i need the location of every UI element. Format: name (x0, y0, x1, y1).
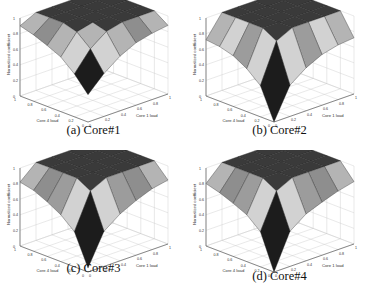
svg-text:1: 1 (169, 246, 171, 250)
svg-text:1: 1 (14, 248, 16, 252)
svg-text:0.8: 0.8 (214, 253, 219, 257)
svg-text:0: 0 (199, 95, 201, 99)
z-axis-label: Normalized coefficient (192, 183, 197, 225)
svg-text:0.6: 0.6 (199, 48, 204, 52)
svg-text:0.4: 0.4 (307, 263, 312, 267)
svg-text:0.6: 0.6 (13, 198, 18, 202)
caption-core3: (c) Core#3 (0, 261, 187, 276)
svg-text:1: 1 (169, 96, 171, 100)
svg-text:1: 1 (199, 167, 201, 171)
svg-text:0.8: 0.8 (153, 102, 158, 106)
svg-text:0.8: 0.8 (28, 253, 33, 257)
panel-core3: 00.20.40.60.8100.20.40.60.8100.20.40.60.… (0, 150, 187, 300)
surface (206, 0, 354, 122)
svg-text:0.2: 0.2 (13, 229, 18, 233)
surface (206, 150, 354, 272)
svg-text:0.2: 0.2 (199, 79, 204, 83)
svg-text:0.8: 0.8 (339, 252, 344, 256)
y-axis-label: Core 4 load (37, 118, 59, 123)
svg-text:0.4: 0.4 (13, 63, 18, 67)
svg-text:1: 1 (355, 96, 357, 100)
z-axis-label: Normalized coefficient (6, 33, 11, 75)
svg-text:0.8: 0.8 (28, 103, 33, 107)
x-axis-label: Core 1 load (136, 113, 158, 118)
svg-text:0.6: 0.6 (227, 108, 232, 112)
surface-plot-core3: 00.20.40.60.8100.20.40.60.8100.20.40.60.… (0, 150, 187, 300)
svg-text:0.8: 0.8 (13, 182, 18, 186)
svg-text:0: 0 (13, 245, 15, 249)
svg-text:0.6: 0.6 (323, 107, 328, 111)
z-axis-label: Normalized coefficient (192, 33, 197, 75)
panel-core2: 00.20.40.60.8100.20.40.60.8100.20.40.60.… (186, 0, 373, 150)
caption-core4: (d) Core#4 (186, 269, 373, 284)
svg-text:1: 1 (13, 17, 15, 21)
svg-text:0.2: 0.2 (291, 118, 296, 122)
svg-text:0.4: 0.4 (199, 63, 204, 67)
svg-text:0.6: 0.6 (137, 107, 142, 111)
x-axis-label: Core 1 load (322, 113, 344, 118)
svg-text:1: 1 (200, 248, 202, 252)
svg-text:0.8: 0.8 (199, 32, 204, 36)
surface (20, 0, 168, 95)
svg-text:1: 1 (14, 98, 16, 102)
svg-text:0.8: 0.8 (153, 252, 158, 256)
svg-text:0.6: 0.6 (199, 198, 204, 202)
z-axis-label: Normalized coefficient (6, 183, 11, 225)
svg-text:1: 1 (200, 98, 202, 102)
caption-core1: (a) Core#1 (0, 123, 187, 138)
svg-text:0.8: 0.8 (339, 102, 344, 106)
svg-text:1: 1 (355, 246, 357, 250)
svg-text:0.2: 0.2 (199, 229, 204, 233)
panel-core1: 00.20.40.60.8100.20.40.60.8100.20.40.60.… (0, 0, 187, 150)
svg-text:0.4: 0.4 (121, 113, 126, 117)
svg-text:0.8: 0.8 (13, 32, 18, 36)
svg-text:0.2: 0.2 (105, 118, 110, 122)
svg-text:0: 0 (13, 95, 15, 99)
svg-text:0.6: 0.6 (13, 48, 18, 52)
svg-text:0: 0 (199, 245, 201, 249)
svg-text:0.6: 0.6 (41, 108, 46, 112)
svg-text:0.4: 0.4 (199, 213, 204, 217)
panel-core4: 00.20.40.60.8100.20.40.60.8100.20.40.60.… (186, 150, 373, 300)
svg-text:0.8: 0.8 (214, 103, 219, 107)
svg-text:0.4: 0.4 (13, 213, 18, 217)
svg-text:0.6: 0.6 (323, 257, 328, 261)
svg-text:0.6: 0.6 (227, 258, 232, 262)
svg-text:0.2: 0.2 (13, 79, 18, 83)
x-axis-label: Core 1 load (322, 263, 344, 268)
y-axis-label: Core 4 load (223, 118, 245, 123)
caption-core2: (b) Core#2 (186, 123, 373, 138)
surface (20, 150, 168, 268)
svg-text:1: 1 (199, 17, 201, 21)
svg-text:0.4: 0.4 (307, 113, 312, 117)
svg-text:0.8: 0.8 (199, 182, 204, 186)
svg-text:1: 1 (13, 167, 15, 171)
